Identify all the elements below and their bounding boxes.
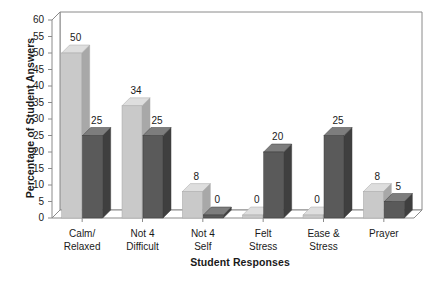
y-axis-tick-label: 5 <box>22 197 44 207</box>
y-axis-tick-label: 60 <box>22 15 44 25</box>
y-axis-tick-label: 25 <box>22 131 44 141</box>
y-axis-tick-label: 15 <box>22 164 44 174</box>
y-axis-tick-label: 20 <box>22 147 44 157</box>
bar-value-label: 20 <box>265 132 291 142</box>
bar-value-label: 25 <box>325 116 351 126</box>
category-label-line: Stress <box>287 241 361 254</box>
y-axis-tick-label: 50 <box>22 48 44 58</box>
bar-value-label: 5 <box>385 182 411 192</box>
bar-value-label: 25 <box>84 116 110 126</box>
y-axis-tick-label: 10 <box>22 180 44 190</box>
x-axis-category-label: Prayer <box>347 228 421 241</box>
bar-value-label: 0 <box>244 195 270 205</box>
y-axis-tick-label: 30 <box>22 114 44 124</box>
y-axis-tick-label: 40 <box>22 81 44 91</box>
bar-value-label: 0 <box>304 195 330 205</box>
bar-value-label: 8 <box>183 172 209 182</box>
bar-value-label: 50 <box>63 33 89 43</box>
y-axis-tick-label: 55 <box>22 32 44 42</box>
category-label-line: Prayer <box>347 228 421 241</box>
y-axis-tick-label: 35 <box>22 98 44 108</box>
y-axis-tick-label: 0 <box>22 213 44 223</box>
bar-value-label: 34 <box>123 86 149 96</box>
y-axis-tick-label: 45 <box>22 65 44 75</box>
bar-value-label: 8 <box>364 172 390 182</box>
bar-chart: Percentage of Student Answers Student Re… <box>0 0 439 282</box>
bar-value-label: 0 <box>204 195 230 205</box>
bar-value-label: 25 <box>144 116 170 126</box>
